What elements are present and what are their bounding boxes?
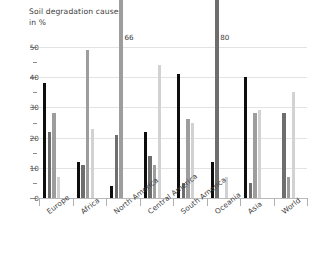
y-axis-label-40: 40: [25, 73, 39, 82]
bar: [91, 129, 94, 198]
y-minor-tick-25: [33, 123, 37, 124]
bar-group: [39, 47, 73, 198]
bar-overflow-segment: [215, 33, 218, 47]
value-annotation-66: 66: [124, 33, 133, 42]
bar-group: [240, 47, 274, 198]
bar: [81, 165, 84, 198]
y-minor-tick-45: [33, 62, 37, 63]
bar: [52, 113, 55, 198]
x-tick: [173, 198, 174, 206]
bar: [48, 132, 51, 198]
bar: [57, 177, 60, 198]
x-tick: [207, 198, 208, 206]
bar: [119, 0, 122, 198]
x-axis-label-asia: Asia: [246, 199, 264, 216]
bar: [287, 177, 290, 198]
bar: [43, 83, 46, 198]
bar: [253, 113, 256, 198]
chart-title: Soil degradation causes: [29, 7, 123, 18]
x-tick: [73, 198, 74, 206]
bar: [215, 0, 218, 198]
y-minor-tick-35: [33, 92, 37, 93]
bar-group: [73, 47, 107, 198]
bar: [244, 77, 247, 198]
y-axis-label-0: 0: [25, 194, 39, 203]
bar: [86, 50, 89, 198]
bar: [110, 186, 113, 198]
bar: [177, 74, 180, 198]
bar-overflow-segment: [119, 33, 122, 47]
y-axis-label-50: 50: [25, 43, 39, 52]
bar-group: [106, 47, 140, 198]
value-annotation-80: 80: [220, 33, 229, 42]
y-minor-tick-5: [33, 183, 37, 184]
bar: [282, 113, 285, 198]
bar-group: [207, 47, 241, 198]
chart-title-block: Soil degradation causes in %: [29, 7, 123, 28]
x-tick: [307, 198, 308, 206]
bar-group: [274, 47, 308, 198]
bar: [258, 110, 261, 198]
bar: [158, 65, 161, 198]
y-axis-label-10: 10: [25, 163, 39, 172]
bar: [115, 135, 118, 198]
y-minor-tick-15: [33, 153, 37, 154]
bar-group: [140, 47, 174, 198]
bar: [249, 183, 252, 198]
soil-degradation-bar-chart: Soil degradation causes in % 01020304050…: [0, 0, 317, 267]
chart-subtitle: in %: [29, 18, 123, 29]
x-tick: [240, 198, 241, 206]
bar: [292, 92, 295, 198]
x-tick: [274, 198, 275, 206]
x-tick: [106, 198, 107, 206]
y-axis-label-30: 30: [25, 103, 39, 112]
bar: [77, 162, 80, 198]
y-axis-label-20: 20: [25, 133, 39, 142]
bar: [191, 123, 194, 199]
x-tick: [140, 198, 141, 206]
x-tick: [39, 198, 40, 206]
plot-area: [39, 47, 307, 198]
